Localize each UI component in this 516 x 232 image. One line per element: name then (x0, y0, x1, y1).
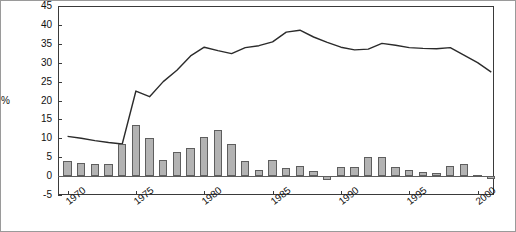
plot-area: % -5051015202530354045197019751980198519… (1, 1, 515, 231)
y-axis-tick (58, 195, 62, 196)
bar (145, 138, 153, 176)
y-axis-tick-label: 15 (16, 114, 52, 124)
y-axis-tick (58, 138, 62, 139)
bar (391, 167, 399, 176)
bar (296, 166, 304, 176)
y-axis-tick-label: 10 (16, 133, 52, 143)
y-axis-tick-label: 35 (16, 39, 52, 49)
bar (460, 164, 468, 176)
chart-figure: % -5051015202530354045197019751980198519… (0, 0, 516, 232)
bar (337, 167, 345, 176)
bar (214, 130, 222, 176)
bar (268, 160, 276, 176)
y-axis-tick-label: 0 (16, 171, 52, 181)
bar (173, 152, 181, 176)
y-axis-tick (58, 6, 62, 7)
bar (446, 166, 454, 176)
bar (241, 161, 249, 176)
bar (77, 163, 85, 176)
bar (200, 137, 208, 176)
y-axis-tick (58, 157, 62, 158)
bar (364, 157, 372, 176)
bar (132, 125, 140, 176)
bar (118, 144, 126, 176)
y-axis-tick (58, 25, 62, 26)
bar (227, 144, 235, 176)
bar (282, 168, 290, 176)
y-axis-tick-label: 20 (16, 96, 52, 106)
bar (159, 160, 167, 176)
bar (63, 161, 71, 176)
y-axis-tick (58, 101, 62, 102)
zero-baseline (58, 176, 494, 177)
bar (91, 164, 99, 176)
y-axis-tick-label: 25 (16, 77, 52, 87)
y-axis-tick (58, 119, 62, 120)
y-axis-tick-label: 40 (16, 20, 52, 30)
bar (186, 148, 194, 176)
y-axis-tick-label: 30 (16, 58, 52, 68)
y-axis-tick-label: 45 (16, 1, 52, 11)
y-axis-tick-label: 5 (16, 152, 52, 162)
y-axis-tick-label: -5 (16, 190, 52, 200)
bar (350, 167, 358, 176)
y-axis-tick (58, 44, 62, 45)
y-axis-tick (58, 63, 62, 64)
bar (378, 157, 386, 176)
y-axis-tick (58, 82, 62, 83)
bar (104, 164, 112, 176)
